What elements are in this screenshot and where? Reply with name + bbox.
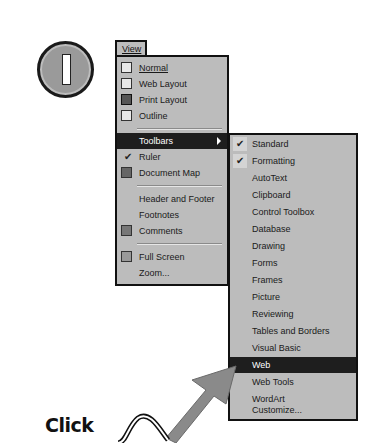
callout-click-label: Click (45, 414, 93, 436)
pointer-arrow-icon (0, 0, 374, 443)
